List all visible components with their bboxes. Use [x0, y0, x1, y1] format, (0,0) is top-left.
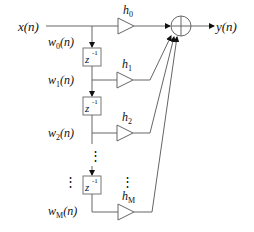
tap-branch-m — [92, 194, 118, 212]
h2-to-sum-line — [133, 37, 174, 133]
amplifier-h2: h2 — [117, 110, 133, 141]
amplifier-hm: hM — [118, 189, 135, 220]
delay-block-2: z -1 — [83, 97, 101, 115]
signal-label-w2: w2(n) — [48, 126, 74, 142]
ellipsis-vertical-left: ⋮ — [64, 174, 77, 189]
input-label: x(n) — [17, 19, 39, 34]
svg-text:-1: -1 — [92, 98, 98, 106]
svg-text:hM: hM — [122, 189, 135, 205]
svg-text:-1: -1 — [92, 177, 98, 185]
svg-text:z: z — [84, 53, 90, 65]
fir-filter-diagram: x(n) h0 y(n) w0(n) z -1 w1(n) h1 z -1 w2… — [0, 0, 254, 232]
summer-plus-circle-icon — [171, 16, 191, 36]
output-label: y(n) — [214, 19, 237, 34]
amplifier-h0: h0 — [118, 3, 134, 34]
delay-block-1: z -1 — [83, 48, 101, 66]
svg-text:h2: h2 — [122, 110, 132, 126]
delay-block-m: z -1 — [83, 176, 101, 194]
signal-label-w0: w0(n) — [48, 35, 74, 51]
svg-text:z: z — [84, 181, 90, 193]
signal-label-w1: w1(n) — [48, 73, 74, 89]
amplifier-h1: h1 — [117, 57, 133, 88]
svg-text:z: z — [84, 102, 90, 114]
ellipsis-vertical-center: ⋮ — [89, 148, 102, 163]
svg-text:h0: h0 — [123, 3, 133, 19]
signal-label-wm: wM(n) — [48, 204, 77, 220]
ellipsis-vertical-right: ⋮ — [121, 174, 134, 189]
svg-text:-1: -1 — [92, 49, 98, 57]
hm-to-sum-line — [134, 37, 177, 212]
svg-text:h1: h1 — [122, 57, 132, 73]
